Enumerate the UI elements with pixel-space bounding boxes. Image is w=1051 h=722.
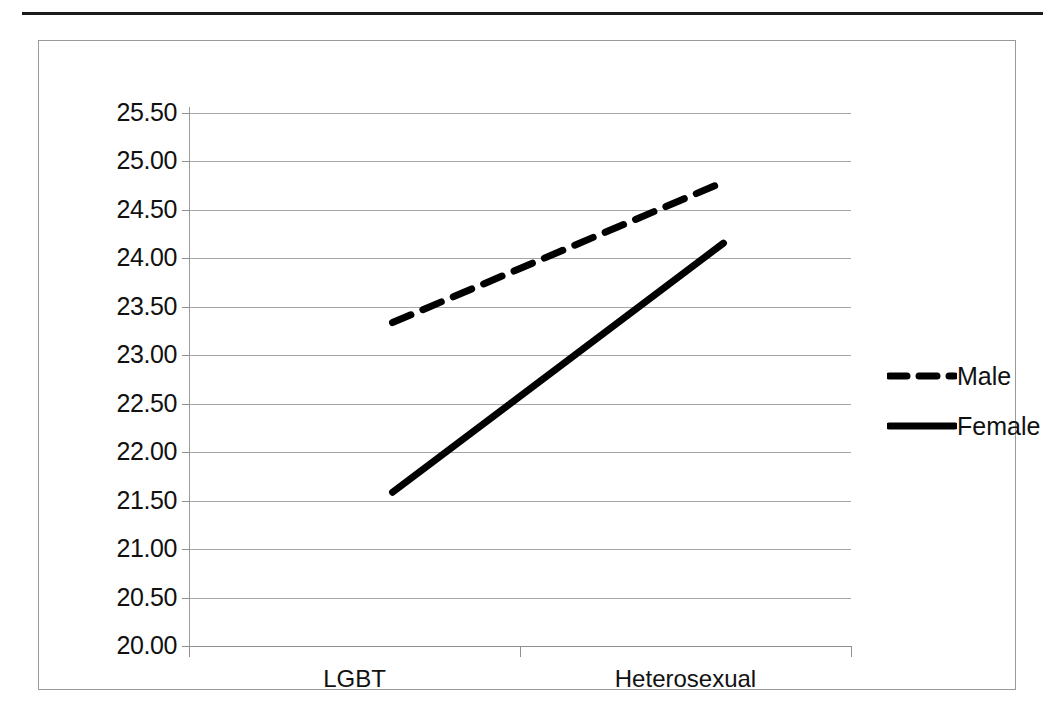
legend-swatch-solid-icon: [887, 415, 957, 437]
x-axis-tick-label: LGBT: [323, 665, 386, 693]
y-axis-tick-label: 24.00: [57, 245, 177, 270]
y-axis-tick: [182, 452, 190, 453]
legend-item-male[interactable]: Male: [887, 351, 1051, 401]
legend-label: Male: [957, 364, 1011, 389]
y-axis-tick: [182, 307, 190, 308]
y-axis-tick: [182, 355, 190, 356]
y-axis-line: [189, 107, 190, 652]
plot-area: [189, 113, 851, 646]
y-axis-tick: [182, 598, 190, 599]
y-axis-tick-label: 21.50: [57, 488, 177, 513]
chart-frame: 25.5025.0024.5024.0023.5023.0022.5022.00…: [38, 40, 1016, 690]
legend-item-female[interactable]: Female: [887, 401, 1051, 451]
y-axis-tick-label: 20.00: [57, 633, 177, 658]
gridline: [189, 598, 851, 599]
y-axis-tick-label: 25.50: [57, 100, 177, 125]
chart-legend: MaleFemale: [887, 351, 1051, 451]
x-axis-tick: [189, 646, 190, 657]
y-axis-tick: [182, 210, 190, 211]
y-axis-tick-label: 23.50: [57, 294, 177, 319]
y-axis-tick: [182, 549, 190, 550]
gridline: [189, 549, 851, 550]
gridline: [189, 113, 851, 114]
x-axis-tick-label: Heterosexual: [615, 665, 756, 693]
y-axis-tick-label: 22.50: [57, 391, 177, 416]
y-axis-tick: [182, 161, 190, 162]
x-axis-tick: [520, 646, 521, 657]
y-axis-tick: [182, 113, 190, 114]
y-axis-tick: [182, 258, 190, 259]
gridline: [189, 161, 851, 162]
y-axis-tick-label: 24.50: [57, 197, 177, 222]
y-axis-labels: 25.5025.0024.5024.0023.5023.0022.5022.00…: [49, 41, 177, 691]
y-axis-tick-label: 20.50: [57, 585, 177, 610]
y-axis-tick-label: 22.00: [57, 439, 177, 464]
y-axis-tick-label: 25.00: [57, 148, 177, 173]
gridline: [189, 404, 851, 405]
gridline: [189, 210, 851, 211]
gridline: [189, 258, 851, 259]
gridline: [189, 501, 851, 502]
legend-swatch-dashed-icon: [887, 365, 957, 387]
y-axis-tick: [182, 501, 190, 502]
y-axis-tick: [182, 404, 190, 405]
gridline: [189, 307, 851, 308]
legend-label: Female: [957, 414, 1040, 439]
x-axis-tick: [851, 646, 852, 657]
gridline: [189, 452, 851, 453]
y-axis-tick-label: 23.00: [57, 342, 177, 367]
y-axis-tick-label: 21.00: [57, 536, 177, 561]
page-top-rule: [22, 12, 1043, 15]
gridline: [189, 355, 851, 356]
